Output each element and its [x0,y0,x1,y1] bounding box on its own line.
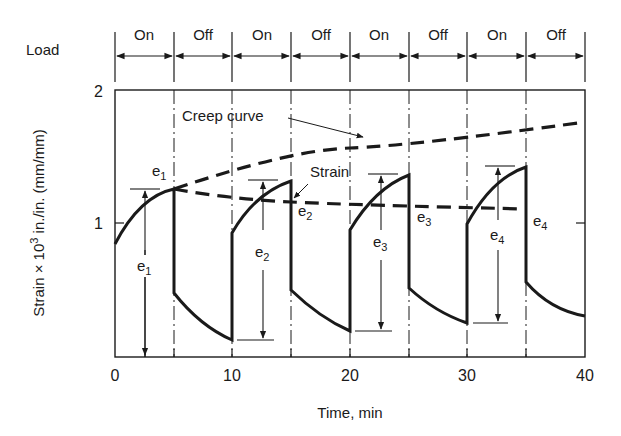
creep-curve-leader [288,118,363,137]
phase-label-6: Off [428,26,449,43]
x-axis-label: Time, min [317,404,382,421]
e2-top-label: e2 [298,202,312,222]
x-tick-40: 40 [576,367,594,384]
e4-top-label: e4 [533,212,547,232]
e2-markers [237,180,278,340]
e1-top-label: e1 [152,162,166,182]
phase-label-5: On [369,26,389,43]
e2-span-label: e2 [255,243,269,263]
phase-label-8: Off [546,26,567,43]
strain-label: Strain [310,163,349,180]
x-tick-30: 30 [458,367,476,384]
phase-label-4: Off [311,26,332,43]
y-tick-1: 1 [94,215,103,232]
e3-span-label: e3 [373,233,387,253]
x-tick-20: 20 [341,367,359,384]
e4-markers [473,166,515,323]
phase-label-2: Off [193,26,214,43]
y-tick-2: 2 [94,83,103,100]
x-tick-10: 10 [223,367,241,384]
strain-leader [294,184,308,198]
phase-label-3: On [252,26,272,43]
creep-curve-label: Creep curve [182,107,264,124]
x-tick-0: 0 [111,367,120,384]
creep-curve-line [174,122,585,189]
load-label: Load [26,41,59,58]
y-axis-label: Strain × 103 in./in. (mm/mm) [28,129,47,316]
phase-label-1: On [134,26,154,43]
phase-label-7: On [487,26,507,43]
creep-chart: Load On Off On Off On Off On Off [0,0,621,436]
load-phase-row [115,32,585,82]
e4-span-label: e4 [490,226,504,246]
e3-top-label: e3 [417,208,431,228]
